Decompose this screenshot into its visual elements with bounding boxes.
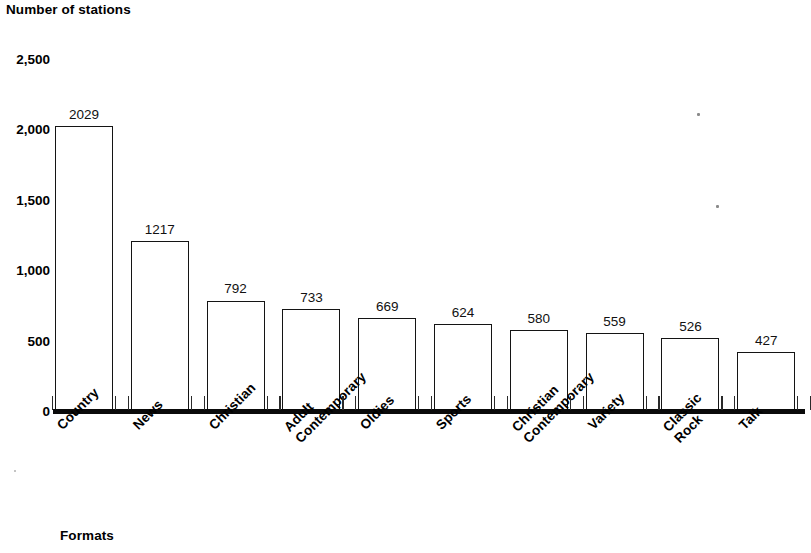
- x-axis-tick: [279, 396, 280, 410]
- x-axis-tick: [418, 396, 419, 410]
- plot-area: 20291217792733669624580559526427: [55, 60, 805, 412]
- x-axis-tick: [658, 396, 659, 410]
- x-axis-tick: [355, 396, 356, 410]
- x-axis-tick: [191, 396, 192, 410]
- x-axis-tick: [734, 396, 735, 410]
- bar-value-label: 792: [195, 281, 277, 296]
- x-axis-tick: [646, 396, 647, 410]
- x-axis-title: Formats: [60, 528, 114, 543]
- bar: [131, 241, 189, 412]
- x-axis-tick: [267, 396, 268, 410]
- x-axis-tick: [431, 396, 432, 410]
- y-axis-tick-label: 1,000: [4, 264, 50, 278]
- y-axis-tick-label: 2,500: [4, 53, 50, 67]
- bar: [55, 126, 113, 412]
- x-axis-tick: [570, 396, 571, 410]
- x-axis-tick: [797, 396, 798, 410]
- bar-value-label: 526: [649, 319, 731, 334]
- x-axis-tick: [342, 396, 343, 410]
- bar-value-label: 1217: [119, 222, 201, 237]
- scan-speckle: [716, 205, 719, 208]
- bar: [737, 352, 795, 412]
- bar-value-label: 669: [346, 299, 428, 314]
- x-axis-tick: [204, 396, 205, 410]
- x-axis-tick: [721, 396, 722, 410]
- bar-value-label: 559: [574, 314, 656, 329]
- x-axis-tick: [507, 396, 508, 410]
- x-axis-tick: [115, 396, 116, 410]
- y-axis-tick-label: 2,000: [4, 123, 50, 137]
- bar-value-label: 624: [422, 305, 504, 320]
- bar-value-label: 733: [270, 290, 352, 305]
- x-axis-tick: [128, 396, 129, 410]
- y-axis-tick-label: 1,500: [4, 194, 50, 208]
- bar-value-label: 2029: [43, 107, 125, 122]
- x-axis-tick: [494, 396, 495, 410]
- x-axis-tick: [583, 396, 584, 410]
- bar-value-label: 580: [498, 311, 580, 326]
- bar-value-label: 427: [725, 333, 807, 348]
- scan-speckle: [14, 470, 16, 472]
- x-axis-category-labels: CountryNewsChristianAdultContemporaryOld…: [0, 414, 805, 524]
- y-axis-tick-label: 500: [4, 335, 50, 349]
- x-axis-tick: [52, 396, 53, 410]
- scan-speckle: [697, 113, 700, 116]
